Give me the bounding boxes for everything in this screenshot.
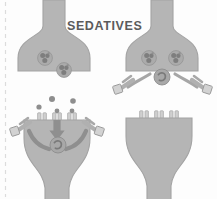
- central-receptor: [50, 137, 66, 153]
- vesicle: [142, 51, 157, 66]
- diagram-title: SEDATIVES: [67, 19, 142, 33]
- vesicle: [57, 63, 72, 78]
- free-molecule: [49, 96, 55, 102]
- sedatives-diagram: SEDATIVES: [0, 0, 217, 199]
- central-receptor: [154, 69, 170, 85]
- free-molecule: [36, 104, 41, 109]
- diagram-canvas: SEDATIVES: [0, 0, 217, 199]
- vesicle: [38, 51, 53, 66]
- free-molecule: [70, 98, 76, 104]
- vesicle: [169, 51, 184, 66]
